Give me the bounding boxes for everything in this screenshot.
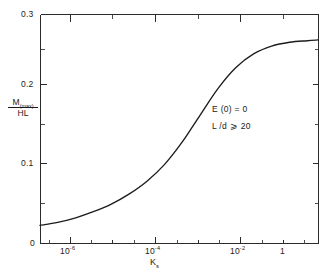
- axis-frame: [41, 15, 319, 244]
- x-axis-label-sub: s: [156, 263, 159, 269]
- y-axis-label: M(max) HL: [8, 98, 38, 118]
- y-tick-label-03: 0.3: [21, 9, 33, 19]
- x-tick-base: 10: [230, 246, 240, 256]
- data-curve: [40, 40, 318, 225]
- y-axis-major-ticks: [41, 15, 47, 244]
- x-tick-base: 10: [60, 246, 70, 256]
- annotation-slenderness-ratio: L /d ⩾ 20: [212, 121, 251, 131]
- plot-canvas: [0, 0, 330, 273]
- y-axis-right-ticks: [313, 15, 319, 244]
- y-axis-label-numerator: M(max): [8, 98, 38, 108]
- x-axis-label: Ks: [150, 257, 159, 267]
- x-tick-base: 10: [145, 246, 155, 256]
- y-axis-minor-ticks: [41, 50, 45, 204]
- chart-figure: 0.3 0.2 0.1 0 10-6 10-4 10-2 1 M(max) HL…: [0, 0, 330, 273]
- y-tick-label-0: 0: [30, 238, 35, 248]
- x-tick-label-1e-2: 10-2: [230, 246, 245, 256]
- x-tick-label-1e-6: 10-6: [60, 246, 75, 256]
- x-tick-exponent: -4: [155, 245, 160, 251]
- y-axis-label-denominator: HL: [8, 108, 38, 117]
- y-axis-label-numerator-main: M: [13, 97, 20, 107]
- x-tick-label-1e-4: 10-4: [145, 246, 160, 256]
- y-tick-label-02: 0.2: [21, 79, 33, 89]
- x-tick-label-1: 1: [280, 246, 285, 256]
- x-tick-exponent: -6: [70, 245, 75, 251]
- x-axis-top-ticks: [71, 15, 284, 22]
- x-tick-exponent: -2: [240, 245, 245, 251]
- annotation-boundary-condition: E (0) = 0: [212, 104, 248, 114]
- x-tick-base: 1: [280, 246, 285, 256]
- y-tick-label-01: 0.1: [21, 158, 33, 168]
